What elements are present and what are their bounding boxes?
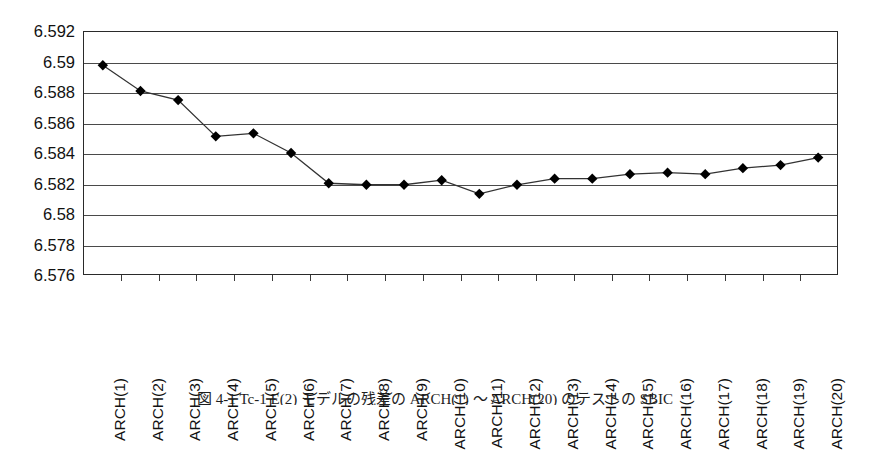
- data-point-marker: [587, 174, 597, 184]
- x-axis-tick: [800, 275, 801, 281]
- x-axis-tick: [687, 275, 688, 281]
- data-point-marker: [474, 189, 484, 199]
- x-axis-tick: [423, 275, 424, 281]
- y-axis-tick-label: 6.592: [34, 23, 75, 40]
- data-point-marker: [135, 86, 145, 96]
- x-axis-tick: [121, 275, 122, 281]
- data-point-marker: [361, 180, 371, 190]
- y-axis-tick-label: 6.59: [43, 53, 75, 70]
- y-axis-tick-label: 6.576: [34, 267, 75, 284]
- x-axis-tick: [536, 275, 537, 281]
- data-point-marker: [625, 169, 635, 179]
- x-axis-tick: [159, 275, 160, 281]
- x-axis-tick: [347, 275, 348, 281]
- data-point-marker: [436, 175, 446, 185]
- x-axis-tick: [574, 275, 575, 281]
- figure-caption: 図 4-1 Tc-1 E(2) モデルの残差の ARCH(1) ～ ARCH(2…: [0, 389, 870, 405]
- x-axis-tick: [498, 275, 499, 281]
- data-point-marker: [98, 60, 108, 70]
- data-point-marker: [738, 163, 748, 173]
- x-axis-tick: [272, 275, 273, 281]
- data-point-marker: [248, 128, 258, 138]
- y-axis-tick-label: 6.578: [34, 236, 75, 253]
- x-axis-labels: ARCH(1)ARCH(2)ARCH(3)ARCH(4)ARCH(5)ARCH(…: [83, 283, 838, 378]
- data-point-marker: [549, 174, 559, 184]
- data-point-marker: [700, 169, 710, 179]
- y-axis-tick-label: 6.586: [34, 114, 75, 131]
- x-axis-tick: [310, 275, 311, 281]
- x-axis-ticks: [83, 275, 838, 282]
- x-axis-tick: [649, 275, 650, 281]
- y-axis-tick-label: 6.582: [34, 175, 75, 192]
- series-line: [103, 65, 818, 194]
- data-point-marker: [813, 152, 823, 162]
- x-axis-tick: [385, 275, 386, 281]
- x-axis-tick: [461, 275, 462, 281]
- data-point-marker: [512, 180, 522, 190]
- x-axis-tick: [612, 275, 613, 281]
- line-series: [84, 32, 837, 274]
- plot-area: [83, 31, 838, 275]
- y-axis-tick-label: 6.58: [43, 206, 75, 223]
- data-point-marker: [399, 180, 409, 190]
- y-axis-labels: 6.5766.5786.586.5826.5846.5866.5886.596.…: [0, 0, 78, 285]
- x-axis-tick: [196, 275, 197, 281]
- y-axis-tick-label: 6.584: [34, 145, 75, 162]
- x-axis-tick: [763, 275, 764, 281]
- data-point-marker: [662, 168, 672, 178]
- x-axis-tick: [725, 275, 726, 281]
- y-axis-tick-label: 6.588: [34, 84, 75, 101]
- data-point-marker: [775, 160, 785, 170]
- x-axis-tick: [234, 275, 235, 281]
